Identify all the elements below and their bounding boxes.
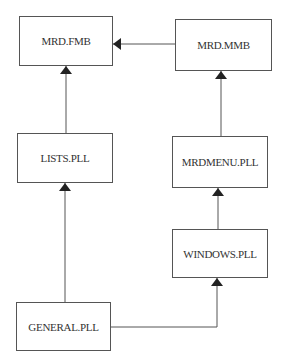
node-mrdmenu-pll[interactable]: MRDMENU.PLL (172, 136, 268, 188)
node-general-pll[interactable]: GENERAL.PLL (16, 302, 111, 351)
edge-general-to-windows (111, 278, 217, 327)
node-label: MRDMENU.PLL (182, 156, 258, 168)
node-label: LISTS.PLL (41, 152, 90, 164)
node-label: GENERAL.PLL (28, 321, 98, 333)
node-label: MRD.MMB (197, 39, 250, 51)
node-lists-pll[interactable]: LISTS.PLL (17, 133, 113, 183)
node-mrd-mmb[interactable]: MRD.MMB (175, 19, 272, 71)
node-label: MRD.FMB (42, 35, 91, 47)
node-mrd-fmb[interactable]: MRD.FMB (19, 16, 113, 66)
node-label: WINDOWS.PLL (183, 248, 256, 260)
node-windows-pll[interactable]: WINDOWS.PLL (172, 229, 268, 278)
